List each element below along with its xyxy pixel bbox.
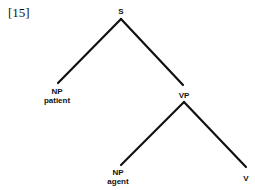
node-s: S xyxy=(118,7,123,16)
node-np-patient: NP patient xyxy=(44,87,70,105)
node-np-patient-label: NP xyxy=(44,87,70,96)
tree-branches xyxy=(0,0,255,190)
node-np-agent: NP agent xyxy=(107,168,128,186)
branch-s-vp xyxy=(121,19,183,85)
syntax-tree-diagram: [15] S NP patient VP NP agent V xyxy=(0,0,255,190)
branch-vp-v xyxy=(184,102,246,167)
node-np-agent-sublabel: agent xyxy=(107,177,128,186)
node-vp: VP xyxy=(179,91,190,100)
node-np-agent-label: NP xyxy=(107,168,128,177)
branch-vp-np xyxy=(121,102,184,165)
node-v: V xyxy=(243,174,248,183)
branch-s-np xyxy=(58,19,121,83)
node-np-patient-sublabel: patient xyxy=(44,96,70,105)
